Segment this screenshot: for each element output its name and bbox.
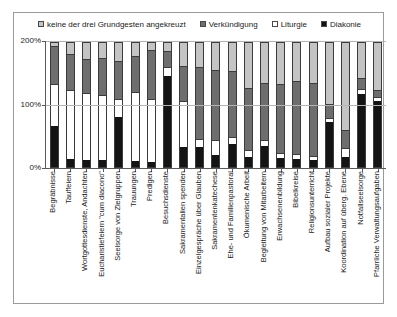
legend-label: Liturgie <box>281 20 307 29</box>
bar-segment <box>115 61 122 99</box>
bar-segment <box>67 54 74 90</box>
bar-segment <box>245 88 252 150</box>
bar-segment <box>261 146 268 167</box>
bar-segment <box>212 140 219 156</box>
bar-segment <box>132 161 139 167</box>
bar-segment <box>293 42 300 81</box>
x-label-slot: Tauffeiern <box>61 171 77 303</box>
bar-segment <box>245 157 252 167</box>
x-axis-label: Aufbau sozialer Projekte <box>324 171 332 252</box>
chart-container: keine der drei Grundgesten angekreuztVer… <box>0 0 397 317</box>
bar-segment <box>326 104 333 118</box>
x-axis-labels: BegräbnisseTauffeiernWortgottesdienste, … <box>45 171 385 303</box>
legend-swatch-icon <box>200 21 206 27</box>
bar-segment <box>83 160 90 167</box>
x-axis-label: Seelsorge von Zielgruppen <box>114 171 122 261</box>
x-axis-label: Religionsunterricht <box>308 171 316 233</box>
bar-segment <box>196 139 203 147</box>
x-label-slot: Ehe- und Familienpastoral <box>223 171 239 303</box>
bar-segment <box>148 42 155 50</box>
x-label-slot: Trauungen <box>126 171 142 303</box>
gridline <box>46 105 386 106</box>
y-axis-tick <box>42 41 46 42</box>
x-axis-label: Sakramentenkatechese <box>211 171 219 250</box>
x-label-slot: Sakramentalien spenden <box>175 171 191 303</box>
x-axis-label: Begleitung von Mitarbeitern <box>260 171 268 262</box>
legend-swatch-icon <box>38 21 44 27</box>
x-axis-label: Sakramentalien spenden <box>179 171 187 254</box>
x-label-slot: Predigen <box>142 171 158 303</box>
x-axis-label: Begräbnisse <box>49 171 57 213</box>
x-label-slot: Ökumenische Arbeit <box>239 171 255 303</box>
bar-segment <box>293 159 300 167</box>
bar-segment <box>164 67 171 76</box>
x-label-slot: Aufbau sozialer Projekte <box>320 171 336 303</box>
x-axis-label: Predigen <box>146 171 154 201</box>
x-axis-label: Eucharistiefeiern "cum diacono" <box>98 171 106 277</box>
bar-segment <box>196 67 203 139</box>
bar-segment <box>342 148 349 158</box>
x-label-slot: Seelsorge von Zielgruppen <box>110 171 126 303</box>
legend-swatch-icon <box>321 21 327 27</box>
bar-segment <box>196 42 203 67</box>
bar-segment <box>67 159 74 167</box>
bar-segment <box>293 81 300 153</box>
bar-segment <box>374 90 381 97</box>
bar-segment <box>115 99 122 117</box>
x-axis-label: Bibelkreise <box>292 171 300 208</box>
bar-segment <box>67 90 74 159</box>
x-axis-label: Trauungen <box>130 171 138 207</box>
y-axis-tick <box>42 168 46 169</box>
bar-segment <box>326 122 333 167</box>
bar-segment <box>164 42 171 51</box>
x-label-slot: Notfallseelsorge <box>353 171 369 303</box>
plot-area: 200%100%0% <box>45 41 386 169</box>
x-axis-label: Pfarrliche Verwaltungsaufgaben <box>373 171 381 277</box>
chart-legend: keine der drei Grundgesten angekreuztVer… <box>14 16 385 32</box>
bar-segment <box>180 147 187 167</box>
bar-segment <box>148 99 155 162</box>
bar-segment <box>99 42 106 58</box>
legend-entry: keine der drei Grundgesten angekreuzt <box>38 20 186 29</box>
y-axis-tick-label: 0% <box>29 163 41 172</box>
bar-segment <box>83 93 90 160</box>
x-axis-label: Koordination auf überg. Ebene <box>340 171 348 273</box>
bar-segment <box>83 59 90 93</box>
x-axis-label: Besuchsdienste <box>162 171 170 224</box>
x-label-slot: Sakramentenkatechese <box>207 171 223 303</box>
bar-segment <box>51 46 58 84</box>
bar-segment <box>229 137 236 144</box>
bar-segment <box>374 42 381 90</box>
x-axis-label: Tauffeiern <box>65 171 73 204</box>
y-axis-tick-label: 200% <box>21 36 41 45</box>
x-label-slot: Bibelkreise <box>288 171 304 303</box>
bar-segment <box>51 126 58 167</box>
bar-segment <box>342 130 349 148</box>
bar-segment <box>358 42 365 78</box>
bar-segment <box>358 78 365 89</box>
x-label-slot: Religionsunterricht <box>304 171 320 303</box>
bar-segment <box>115 42 122 61</box>
bar-segment <box>115 117 122 167</box>
bar-segment <box>148 50 155 99</box>
gridline <box>46 41 386 42</box>
y-axis-tick <box>42 105 46 106</box>
bar-segment <box>310 160 317 167</box>
bar-segment <box>132 42 139 56</box>
legend-entry: Diakonie <box>321 20 361 29</box>
bar-segment <box>83 42 90 59</box>
x-label-slot: Begleitung von Mitarbeitern <box>255 171 271 303</box>
bar-segment <box>132 92 139 161</box>
bar-segment <box>261 42 268 83</box>
x-axis-label: Erwachsenenbildung <box>276 171 284 241</box>
bar-segment <box>374 101 381 167</box>
legend-label: keine der drei Grundgesten angekreuzt <box>47 20 186 29</box>
bar-segment <box>277 84 284 152</box>
bar-segment <box>229 144 236 167</box>
x-axis-label: Ehe- und Familienpastoral <box>227 171 235 259</box>
bar-segment <box>277 158 284 167</box>
bar-segment <box>180 42 187 66</box>
x-label-slot: Pfarrliche Verwaltungsaufgaben <box>369 171 385 303</box>
legend-label: Diakonie <box>330 20 361 29</box>
x-axis-label: Ökumenische Arbeit <box>243 171 251 238</box>
